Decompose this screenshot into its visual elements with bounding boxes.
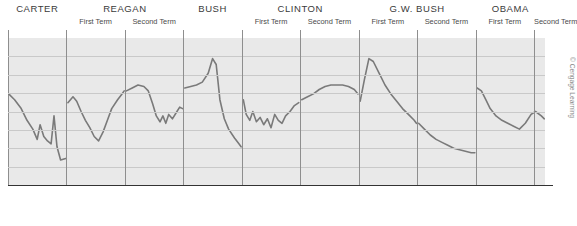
header-tick <box>8 30 9 38</box>
gridline-horizontal <box>8 112 545 113</box>
chart-plot-area <box>8 38 545 185</box>
gridline-horizontal <box>8 75 545 76</box>
series-segment <box>185 59 241 147</box>
series-segment <box>126 85 182 123</box>
term-separator-line <box>66 38 67 185</box>
term-separator-line <box>242 38 243 185</box>
gridline-horizontal <box>8 93 545 94</box>
term-label: Second Term <box>125 17 183 26</box>
president-name-clinton: CLINTON <box>242 3 359 14</box>
x-axis: 1977197919811983198519871989199119931995… <box>0 178 577 208</box>
president-name-obama: OBAMA <box>476 3 545 14</box>
term-separator-line <box>300 38 301 185</box>
president-name-carter: CARTER <box>8 3 66 14</box>
term-label: First Term <box>242 17 300 26</box>
header-tick <box>125 30 126 38</box>
series-segment <box>9 94 66 160</box>
term-separator-line <box>359 38 360 185</box>
header-tick <box>359 30 360 38</box>
gridline-horizontal <box>8 56 545 57</box>
term-separator-line <box>476 38 477 185</box>
president-name-bush: BUSH <box>183 3 241 14</box>
gridline-horizontal <box>8 148 545 149</box>
series-segment <box>68 91 124 141</box>
header-tick <box>300 30 301 38</box>
gridline-horizontal <box>8 167 545 168</box>
gridline-horizontal <box>8 130 545 131</box>
term-label: Second Term <box>534 17 545 26</box>
term-label: First Term <box>359 17 417 26</box>
term-label: First Term <box>476 17 534 26</box>
president-term-header: CARTERREAGANFirst TermSecond TermBUSHCLI… <box>0 0 545 38</box>
term-separator-line <box>183 38 184 185</box>
term-separator-line <box>125 38 126 185</box>
series-segment <box>360 59 416 124</box>
series-segment <box>243 100 298 128</box>
term-label: Second Term <box>300 17 358 26</box>
header-tick <box>242 30 243 38</box>
header-tick <box>183 30 184 38</box>
term-separator-line <box>534 38 535 185</box>
term-label: First Term <box>66 17 124 26</box>
president-name-g-w-bush: G.W. BUSH <box>359 3 476 14</box>
president-name-reagan: REAGAN <box>66 3 183 14</box>
header-tick <box>66 30 67 38</box>
header-tick <box>534 30 535 38</box>
term-separator-line <box>417 38 418 185</box>
header-tick <box>417 30 418 38</box>
chart-figure: CARTERREAGANFirst TermSecond TermBUSHCLI… <box>0 0 577 226</box>
copyright-credit: © Cengage Learning <box>569 57 576 118</box>
header-tick <box>476 30 477 38</box>
term-label: Second Term <box>417 17 475 26</box>
